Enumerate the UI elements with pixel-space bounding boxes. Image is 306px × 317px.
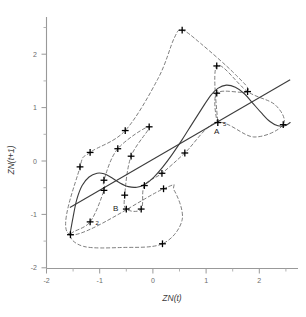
y-axis-title: ZN(t+1): [6, 145, 16, 175]
chart-figure: -2-1012 -2-1012 AB52 ZN(t) ZN(t+1): [0, 0, 306, 317]
x-tick-label: -2: [43, 277, 49, 284]
annotation-label-5: 5: [223, 121, 227, 127]
y-tick-label: 0: [33, 158, 37, 165]
data-point-marker: [213, 63, 220, 70]
data-point-marker: [160, 185, 167, 192]
annotation-label-B: B: [113, 204, 118, 213]
data-point-marker: [101, 187, 108, 194]
dashed-trajectory-curve: [66, 30, 285, 248]
x-axis-title: ZN(t): [161, 293, 182, 303]
linear-trend-line: [70, 80, 290, 208]
x-axis-ticks: -2-1012: [43, 269, 286, 285]
axis-spines: [47, 17, 299, 269]
data-point-marker: [101, 177, 108, 184]
y-tick-label: -2: [31, 264, 37, 271]
annotation-label-A: A: [214, 127, 220, 136]
x-tick-label: -1: [97, 277, 103, 284]
x-tick-label: 0: [151, 277, 155, 284]
data-point-marker: [121, 192, 128, 199]
x-tick-label: 1: [204, 277, 208, 284]
y-tick-label: -1: [31, 211, 37, 218]
y-axis-ticks: -2-1012: [31, 28, 47, 272]
y-tick-label: 2: [33, 51, 37, 58]
data-point-marker: [87, 149, 94, 156]
data-point-marker: [146, 123, 153, 130]
data-point-marker: [159, 240, 166, 247]
data-point-marker: [179, 27, 186, 34]
data-point-marker: [77, 163, 84, 170]
data-point-marker: [138, 206, 145, 213]
x-tick-label: 2: [257, 277, 261, 284]
data-point-marker: [128, 153, 135, 160]
fitted-smooth-curve: [70, 85, 290, 235]
scatter-plot-canvas: -2-1012 -2-1012 AB52 ZN(t) ZN(t+1): [0, 0, 306, 317]
y-tick-label: 1: [33, 104, 37, 111]
